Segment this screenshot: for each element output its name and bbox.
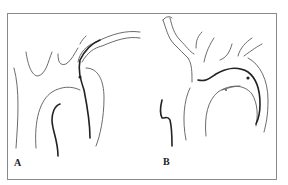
panel-b-drawing — [161, 17, 269, 146]
illustration — [0, 0, 288, 185]
panel-a-drawing — [14, 31, 140, 156]
panel-label-b: B — [163, 157, 170, 167]
panel-label-a: A — [14, 158, 21, 168]
